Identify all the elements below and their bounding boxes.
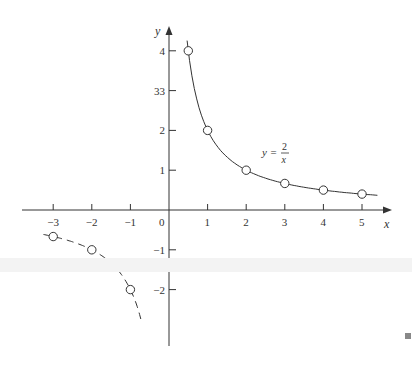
x-tick-label: 1 xyxy=(205,216,211,228)
x-axis-arrow-icon xyxy=(383,207,392,214)
y-tick-label: 4 xyxy=(160,45,166,57)
y-tick-label: −2 xyxy=(153,284,165,296)
scan-artifact-band xyxy=(0,258,412,272)
data-point-marker xyxy=(126,285,134,293)
curve-positive-branch xyxy=(187,41,377,196)
x-tick-label: −1 xyxy=(124,216,136,228)
x-tick-label: 2 xyxy=(243,216,249,228)
data-point-marker xyxy=(184,47,192,55)
y-axis-label: y xyxy=(154,24,161,38)
x-tick-label: 3 xyxy=(282,216,288,228)
hyperbola-plot: xy−3−2−101234543321−1−2y =2x xyxy=(0,0,412,366)
x-tick-label: −2 xyxy=(86,216,98,228)
curve-label-denominator: x xyxy=(281,154,287,165)
end-of-figure-square-icon xyxy=(405,333,411,339)
x-tick-label: 5 xyxy=(359,216,365,228)
data-point-marker xyxy=(49,232,57,240)
curve-label: y = xyxy=(261,146,277,158)
y-tick-label: 2 xyxy=(160,124,166,136)
data-point-marker xyxy=(203,126,211,134)
y-tick-label: −1 xyxy=(153,244,165,256)
data-point-marker xyxy=(319,186,327,194)
data-point-marker xyxy=(281,179,289,187)
data-point-marker xyxy=(242,166,250,174)
y-axis-arrow-icon xyxy=(166,26,173,35)
x-tick-label: −3 xyxy=(47,216,59,228)
x-tick-label: 0 xyxy=(159,216,165,228)
y-tick-label: 1 xyxy=(160,164,166,176)
x-axis-label: x xyxy=(383,217,390,231)
chart-figure: xy−3−2−101234543321−1−2y =2x xyxy=(0,0,412,366)
curve-label-numerator: 2 xyxy=(282,141,287,152)
y-tick-label: 33 xyxy=(154,85,166,97)
data-point-marker xyxy=(88,246,96,254)
x-tick-label: 4 xyxy=(320,216,326,228)
data-point-marker xyxy=(358,190,366,198)
